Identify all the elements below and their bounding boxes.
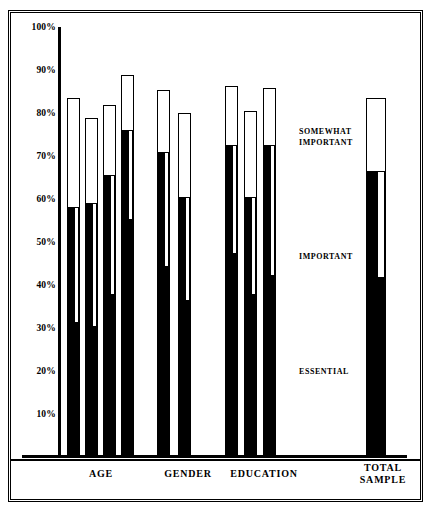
bar-segment-important bbox=[110, 175, 115, 295]
bar-5 bbox=[157, 90, 170, 455]
bar-segment-important bbox=[251, 197, 256, 295]
bar-3 bbox=[103, 105, 116, 455]
y-tick-50: 50% bbox=[10, 237, 56, 247]
bar-segment-important bbox=[185, 197, 190, 302]
bar-7 bbox=[225, 86, 238, 455]
chart-figure: 100% 90% 80% 70% 60% 50% 40% 30% 20% 10%… bbox=[0, 0, 435, 512]
legend-somewhat-important: SOMEWHAT IMPORTANT bbox=[299, 126, 353, 148]
category-label-gender: GENDER bbox=[152, 468, 224, 480]
bar-8 bbox=[244, 111, 257, 455]
bar-segment-important bbox=[128, 130, 133, 220]
y-tick-10: 10% bbox=[10, 409, 56, 419]
y-axis-tick-labels: 100% 90% 80% 70% 60% 50% 40% 30% 20% 10% bbox=[8, 0, 56, 512]
y-tick-90: 90% bbox=[10, 65, 56, 75]
bar-9 bbox=[263, 88, 276, 455]
bar-1 bbox=[67, 98, 80, 455]
bar-10 bbox=[366, 98, 386, 455]
bar-segment-important bbox=[270, 145, 275, 275]
y-axis-line bbox=[58, 27, 61, 458]
legend-important: IMPORTANT bbox=[299, 251, 353, 262]
category-label-age: AGE bbox=[62, 468, 140, 480]
bar-6 bbox=[178, 113, 191, 455]
bar-2 bbox=[85, 118, 98, 455]
y-tick-70: 70% bbox=[10, 151, 56, 161]
bar-segment-important bbox=[377, 171, 385, 278]
category-label-education: EDUCATION bbox=[222, 468, 306, 480]
x-axis-baseline bbox=[22, 455, 407, 458]
bar-segment-important bbox=[74, 207, 79, 322]
y-tick-80: 80% bbox=[10, 108, 56, 118]
y-tick-30: 30% bbox=[10, 323, 56, 333]
y-tick-60: 60% bbox=[10, 194, 56, 204]
bar-segment-important bbox=[164, 152, 169, 267]
bar-4 bbox=[121, 75, 134, 455]
category-label-total-sample: TOTAL SAMPLE bbox=[352, 462, 414, 486]
bar-segment-important bbox=[232, 145, 237, 254]
y-tick-100: 100% bbox=[10, 22, 56, 32]
y-tick-20: 20% bbox=[10, 366, 56, 376]
plot-area: 100% 90% 80% 70% 60% 50% 40% 30% 20% 10%… bbox=[0, 0, 435, 512]
legend-essential: ESSENTIAL bbox=[299, 366, 349, 377]
category-label-divider bbox=[10, 459, 421, 461]
y-tick-40: 40% bbox=[10, 280, 56, 290]
bar-segment-important bbox=[92, 203, 97, 327]
